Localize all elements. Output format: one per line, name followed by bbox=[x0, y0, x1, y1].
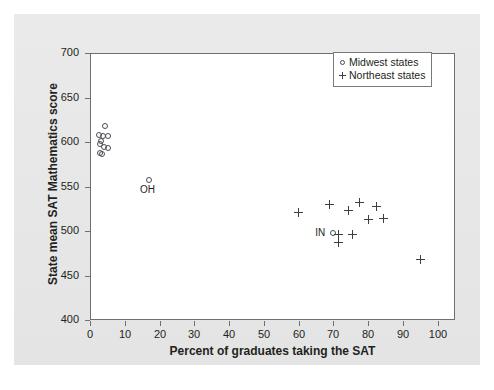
legend[interactable]: Midwest states Northeast states bbox=[333, 52, 432, 87]
x-axis-tick bbox=[264, 321, 265, 326]
y-axis-title: State mean SAT Mathematics score bbox=[46, 39, 60, 329]
plus-marker-icon bbox=[339, 72, 346, 79]
data-point-northeast[interactable] bbox=[344, 206, 353, 215]
data-point-midwest[interactable] bbox=[146, 177, 152, 183]
data-point-northeast[interactable] bbox=[355, 198, 364, 207]
data-point-label: IN bbox=[315, 227, 325, 238]
x-axis-tick-label: 70 bbox=[318, 328, 348, 340]
scatter-plot-figure: 4004505005506006507000102030405060708090… bbox=[0, 0, 494, 390]
x-axis-tick bbox=[403, 321, 404, 326]
data-point-northeast[interactable] bbox=[325, 200, 334, 209]
x-axis-tick bbox=[229, 321, 230, 326]
legend-item-northeast[interactable]: Northeast states bbox=[339, 69, 425, 82]
x-axis-tick-label: 40 bbox=[214, 328, 244, 340]
data-point-northeast[interactable] bbox=[379, 214, 388, 223]
x-axis-tick bbox=[125, 321, 126, 326]
x-axis-tick bbox=[368, 321, 369, 326]
x-axis-tick bbox=[90, 321, 91, 326]
y-axis-tick bbox=[85, 53, 90, 54]
data-point-northeast[interactable] bbox=[348, 230, 357, 239]
data-point-northeast[interactable] bbox=[372, 202, 381, 211]
x-axis-tick-label: 80 bbox=[353, 328, 383, 340]
y-axis-tick bbox=[85, 142, 90, 143]
x-axis-tick-label: 50 bbox=[249, 328, 279, 340]
data-point-northeast[interactable] bbox=[364, 215, 373, 224]
legend-label-midwest: Midwest states bbox=[349, 56, 418, 69]
data-point-label: OH bbox=[140, 184, 155, 195]
x-axis-tick-label: 100 bbox=[423, 328, 453, 340]
x-axis-tick bbox=[299, 321, 300, 326]
x-axis-tick-label: 60 bbox=[284, 328, 314, 340]
x-axis-tick-label: 90 bbox=[388, 328, 418, 340]
data-point-northeast[interactable] bbox=[416, 255, 425, 264]
data-point-northeast[interactable] bbox=[294, 208, 303, 217]
data-point-midwest[interactable] bbox=[105, 145, 111, 151]
circle-marker-icon bbox=[340, 60, 345, 65]
x-axis-title: Percent of graduates taking the SAT bbox=[90, 344, 455, 358]
y-axis-tick bbox=[85, 98, 90, 99]
y-axis-tick bbox=[85, 276, 90, 277]
x-axis-tick-label: 30 bbox=[179, 328, 209, 340]
x-axis-tick-label: 0 bbox=[75, 328, 105, 340]
x-axis-tick bbox=[333, 321, 334, 326]
x-axis-tick bbox=[194, 321, 195, 326]
data-point-northeast[interactable] bbox=[334, 238, 343, 247]
y-axis-tick bbox=[85, 187, 90, 188]
x-axis-tick-label: 20 bbox=[145, 328, 175, 340]
x-axis-tick bbox=[438, 321, 439, 326]
data-point-midwest[interactable] bbox=[99, 151, 105, 157]
legend-label-northeast: Northeast states bbox=[349, 69, 425, 82]
x-axis-tick-label: 10 bbox=[110, 328, 140, 340]
y-axis-tick bbox=[85, 231, 90, 232]
legend-item-midwest[interactable]: Midwest states bbox=[339, 56, 425, 69]
x-axis-tick bbox=[160, 321, 161, 326]
